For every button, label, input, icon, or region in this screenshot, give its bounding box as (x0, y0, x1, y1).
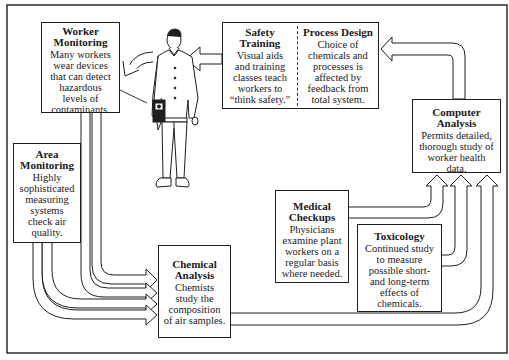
node-text-line: to measure (358, 254, 441, 265)
arrow-medical-to-computer (348, 175, 448, 218)
node-text-line: that can detect (42, 71, 119, 82)
node-text-line: quality. (14, 227, 80, 238)
node-text-line: of air samples. (159, 315, 230, 326)
node-text-line: Visual aids (223, 50, 297, 61)
node-text-line: total system. (298, 94, 378, 105)
node-title: Training (223, 38, 297, 49)
node-text-line: check air (14, 216, 80, 227)
node-process-design: Process Design Choice of chemicals and p… (298, 27, 378, 105)
arrow-toxicology-to-computer (441, 175, 472, 266)
node-text-line: data. (413, 163, 500, 174)
node-text-line: where needed. (276, 268, 348, 279)
node-text-line: Continued study (358, 243, 441, 254)
node-medical-checkups: Medical Checkups Physicians examine plan… (275, 190, 349, 283)
node-text: Visual aids and training classes teach w… (223, 50, 297, 105)
node-safety-training: Safety Training Visual aids and training… (223, 27, 297, 105)
node-title: Monitoring (42, 37, 119, 48)
worker-figure-icon (152, 29, 198, 187)
node-title: Analysis (413, 118, 500, 129)
arrow-worker-to-chemical-upper (92, 112, 157, 291)
node-text-line: hazardous (42, 82, 119, 93)
node-text-line: “think safety.” (223, 94, 297, 105)
node-text-line: and training (223, 61, 297, 72)
node-text-line: Highly (14, 172, 80, 183)
node-text-line: Chemists (159, 282, 230, 293)
node-text: Highly sophisticated measuring systems c… (14, 172, 80, 238)
node-text-line: regular basis (276, 257, 348, 268)
node-text: Chemists study the composition of air sa… (159, 282, 230, 326)
node-text-line: thorough study of (413, 141, 500, 152)
node-text-line: levels of (42, 93, 119, 104)
node-text-line: Choice of (298, 39, 378, 50)
node-text: Physicians examine plant workers on a re… (276, 224, 348, 279)
node-text-line: affected by (298, 72, 378, 83)
node-text-line: contaminants. (42, 104, 119, 115)
node-text-line: chemicals and (298, 50, 378, 61)
node-text: Many workers wear devices that can detec… (42, 49, 119, 115)
node-title: Toxicology (358, 231, 441, 242)
arrow-figure-to-worker-monitoring (123, 52, 153, 76)
node-text-line: sophisticated (14, 183, 80, 194)
node-title: Analysis (159, 270, 230, 281)
node-text-line: classes teach (223, 72, 297, 83)
pointer-line (120, 90, 147, 103)
node-title: Process Design (298, 27, 378, 38)
node-text-line: chemicals. (358, 298, 441, 309)
node-text-line: composition (159, 304, 230, 315)
node-text: Permits detailed, thorough study of work… (413, 130, 500, 174)
node-text-line: and long-term (358, 276, 441, 287)
node-text-line: systems (14, 205, 80, 216)
node-title: Monitoring (14, 160, 80, 171)
node-text-line: workers on a (276, 246, 348, 257)
node-chemical-analysis: Chemical Analysis Chemists study the com… (158, 245, 231, 338)
node-text-line: possible short- (358, 265, 441, 276)
diagram-canvas: Worker Monitoring Many workers wear devi… (0, 0, 509, 360)
arrow-computer-to-process (381, 37, 465, 99)
node-computer-analysis: Computer Analysis Permits detailed, thor… (412, 99, 501, 173)
node-worker-monitoring: Worker Monitoring Many workers wear devi… (41, 22, 120, 113)
node-text-line: Many workers (42, 49, 119, 60)
node-safety-process: Safety Training Visual aids and training… (222, 22, 379, 109)
node-text-line: wear devices (42, 60, 119, 71)
node-text: Continued study to measure possible shor… (358, 243, 441, 309)
node-text-line: study the (159, 293, 230, 304)
node-text-line: examine plant (276, 235, 348, 246)
node-title: Checkups (276, 212, 348, 223)
node-text-line: Physicians (276, 224, 348, 235)
node-text-line: effects of (358, 287, 441, 298)
node-text-line: processes is (298, 61, 378, 72)
node-area-monitoring: Area Monitoring Highly sophisticated mea… (13, 143, 81, 243)
node-text-line: workers to (223, 83, 297, 94)
node-text-line: Permits detailed, (413, 130, 500, 141)
node-toxicology: Toxicology Continued study to measure po… (357, 224, 442, 312)
node-text-line: feedback from (298, 83, 378, 94)
node-text-line: measuring (14, 194, 80, 205)
node-text-line: worker health (413, 152, 500, 163)
node-text: Choice of chemicals and processes is aff… (298, 39, 378, 105)
